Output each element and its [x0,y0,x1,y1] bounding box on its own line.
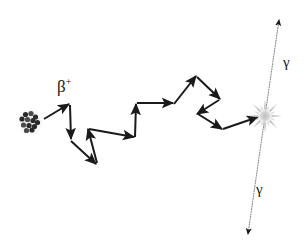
positron-zigzag-track [44,76,258,164]
positron-track-segment [223,117,258,129]
nucleon [24,128,29,133]
positron-track-segment [89,129,134,137]
diagram-canvas [0,0,308,249]
nucleon [29,127,34,132]
positron-label-symbol: β [57,77,66,96]
positron-annihilation-figure: β+ γ γ [0,0,308,249]
nucleon [23,112,28,117]
annihilation-core [258,109,272,123]
gamma-bottom-label: γ [256,182,263,197]
annihilation-spike [272,115,282,118]
annihilation-spike [264,123,267,133]
nucleus-halo-glow [14,106,46,138]
positron-track-segment [70,105,71,139]
radionuclide-nucleus [14,106,46,138]
positron-track-segment [44,104,69,119]
nucleon [25,117,30,122]
nucleon [28,111,33,116]
positron-track-segment [135,104,136,137]
nucleon [19,116,24,121]
annihilation-spike [264,99,267,109]
gamma-ray-lines-group [248,20,279,234]
nucleon [30,118,35,123]
positron-label: β+ [57,78,71,95]
positron-label-charge: + [66,76,72,87]
annihilation-spike [248,115,258,118]
positron-track-segment [198,114,222,129]
gamma-top-label: γ [283,55,290,70]
positron-track-segment [174,76,196,104]
nucleon [26,123,31,128]
positron-track-segment [197,100,219,114]
positron-track-segment [197,77,220,99]
annihilation-event [248,99,282,133]
gamma-ray-up-line [265,20,279,116]
gamma-ray-down-line [248,116,265,234]
nucleon [21,122,26,127]
